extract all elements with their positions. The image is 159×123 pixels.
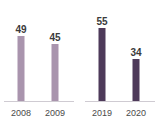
- bar-value-2019: 55: [96, 16, 107, 27]
- chart-group-right: 55 34 2019 2020: [85, 0, 155, 123]
- tick-label-2008: 2008: [4, 107, 38, 119]
- bar-2009[interactable]: [52, 44, 59, 101]
- axis-line-right: [85, 101, 155, 102]
- bar-value-2009: 45: [49, 32, 60, 43]
- tick-label-2020: 2020: [119, 107, 153, 119]
- bar-value-2008: 49: [15, 24, 26, 35]
- tick-labels-left: 2008 2009: [4, 105, 74, 119]
- bar-2019[interactable]: [99, 28, 106, 101]
- bar-slot-2009: 45: [38, 0, 72, 101]
- bar-slot-2019: 55: [85, 0, 119, 101]
- chart-group-left: 49 45 2008 2009: [4, 0, 74, 123]
- bar-slot-2008: 49: [4, 0, 38, 101]
- bar-slot-2020: 34: [119, 0, 153, 101]
- tick-label-2009: 2009: [38, 107, 72, 119]
- bar-2020[interactable]: [133, 59, 140, 101]
- axis-line-left: [4, 101, 74, 102]
- plot-area-right: 55 34: [85, 0, 155, 101]
- plot-area-left: 49 45: [4, 0, 74, 101]
- tick-labels-right: 2019 2020: [85, 105, 155, 119]
- tick-label-2019: 2019: [85, 107, 119, 119]
- bar-value-2020: 34: [130, 47, 141, 58]
- bar-chart: 49 45 2008 2009 55 34 2019: [0, 0, 159, 123]
- bar-2008[interactable]: [18, 36, 25, 101]
